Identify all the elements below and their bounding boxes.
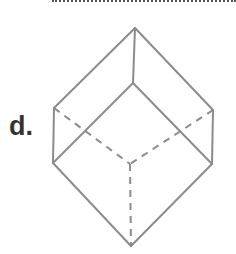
hidden-edge xyxy=(54,108,130,164)
solid-edges xyxy=(53,28,213,246)
hidden-edge xyxy=(130,164,131,246)
solid-edge xyxy=(131,164,212,246)
cube-figure xyxy=(0,0,236,254)
solid-edge xyxy=(53,163,131,246)
solid-edge xyxy=(212,110,213,164)
solid-edge xyxy=(133,28,135,83)
solid-edge xyxy=(54,28,135,108)
solid-edge xyxy=(53,108,54,163)
hidden-edges xyxy=(54,108,213,246)
hidden-edge xyxy=(130,110,213,164)
solid-edge xyxy=(53,83,133,163)
